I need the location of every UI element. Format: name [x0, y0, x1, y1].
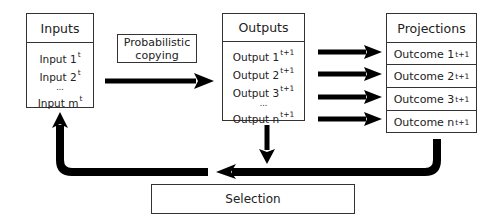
probabilistic-copying-box: Probabilistic copying — [117, 34, 197, 63]
arrow-inputs-to-outputs — [105, 73, 214, 89]
inputs-list: Input 1t Input 2t ... Input mt — [27, 48, 93, 110]
arrows-outputs-to-projections — [318, 45, 382, 126]
input-item: Input 1t — [39, 48, 80, 66]
outcome-row: Outcome 3t+1 — [387, 87, 476, 111]
output-item: Output 1t+1 — [233, 46, 295, 64]
outcome-row: Outcome 1t+1 — [387, 42, 476, 65]
output-item: Output 2t+1 — [233, 64, 295, 82]
selection-label: Selection — [225, 192, 280, 206]
outputs-title: Outputs — [223, 14, 304, 42]
arrow-projections-to-selection — [216, 139, 437, 179]
output-item: Output 3t+1 — [233, 82, 295, 100]
outcome-row: Outcome 2t+1 — [387, 64, 476, 88]
input-item: Input mt — [38, 92, 83, 110]
copying-line2: copying — [135, 49, 178, 62]
inputs-box: Inputs Input 1t Input 2t ... Input mt — [26, 13, 94, 108]
outputs-box: Outputs Output 1t+1 Output 2t+1 Output 3… — [222, 13, 305, 121]
projections-box: Projections Outcome 1t+1 Outcome 2t+1 Ou… — [386, 13, 477, 133]
arrow-outputs-down — [259, 125, 275, 164]
input-item: Input 2t — [39, 66, 80, 84]
selection-box: Selection — [151, 184, 355, 214]
outputs-list: Output 1t+1 Output 2t+1 Output 3t+1 ... … — [223, 46, 304, 126]
input-item-ellipsis: ... — [56, 84, 64, 92]
inputs-title: Inputs — [27, 14, 93, 43]
output-item: Output nt+1 — [233, 108, 294, 126]
outcome-row: Outcome nt+1 — [387, 110, 476, 133]
copying-line1: Probabilistic — [124, 36, 190, 49]
output-item-ellipsis: ... — [260, 100, 268, 108]
projections-title: Projections — [387, 14, 476, 42]
arrow-selection-to-inputs — [52, 112, 208, 172]
